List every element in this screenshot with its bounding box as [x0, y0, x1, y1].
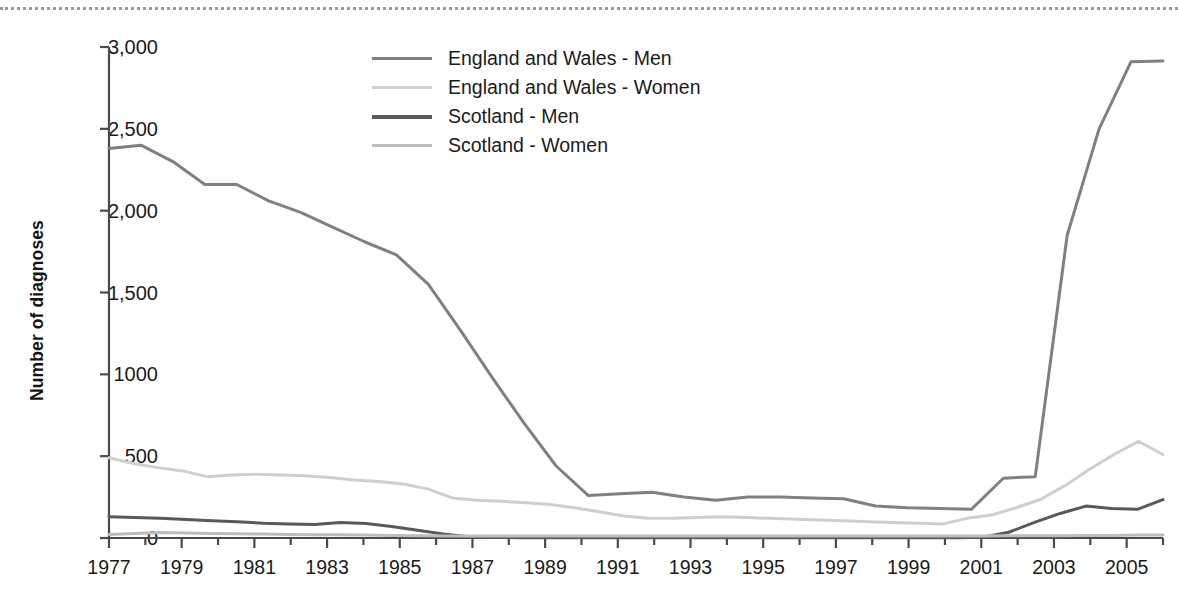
legend-item[interactable]: England and Wales - Women: [372, 73, 772, 102]
chart-legend: England and Wales - MenEngland and Wales…: [372, 44, 772, 160]
x-tick-label: 1991: [596, 556, 639, 579]
x-tick-label: 1985: [378, 556, 421, 579]
x-tick-label: 1983: [305, 556, 348, 579]
x-tick-label: 1995: [742, 556, 785, 579]
legend-line-swatch: [372, 86, 432, 89]
x-tick-label: 2003: [1032, 556, 1075, 579]
legend-label: Scotland - Women: [448, 134, 608, 157]
legend-item[interactable]: England and Wales - Men: [372, 44, 772, 73]
legend-label: England and Wales - Women: [448, 76, 701, 99]
x-tick-label: 1993: [669, 556, 712, 579]
x-tick-label: 2005: [1105, 556, 1148, 579]
x-tick-label: 1997: [814, 556, 857, 579]
legend-line-swatch: [372, 57, 432, 60]
chart-figure: Number of diagnoses 3,0002,5002,0001,500…: [0, 0, 1178, 613]
x-tick-label: 1977: [87, 556, 130, 579]
legend-label: England and Wales - Men: [448, 47, 672, 70]
legend-label: Scotland - Men: [448, 105, 579, 128]
x-tick-label: 1989: [523, 556, 566, 579]
x-tick-label: 1999: [887, 556, 930, 579]
legend-line-swatch: [372, 115, 432, 119]
x-tick-label: 1981: [233, 556, 276, 579]
x-tick-label: 1979: [160, 556, 203, 579]
x-tick-label: 2001: [960, 556, 1003, 579]
legend-item[interactable]: Scotland - Women: [372, 131, 772, 160]
legend-item[interactable]: Scotland - Men: [372, 102, 772, 131]
legend-line-swatch: [372, 144, 432, 147]
x-tick-label: 1987: [451, 556, 494, 579]
